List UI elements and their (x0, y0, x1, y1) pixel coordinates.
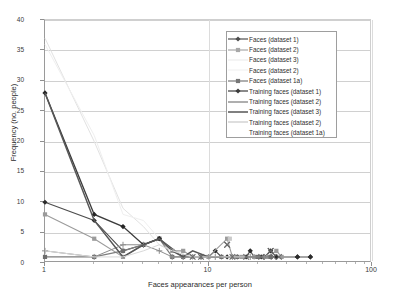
legend-marker-icon (227, 97, 249, 107)
legend-marker-icon (227, 86, 249, 96)
data-point (121, 249, 125, 253)
x-minor-tick (306, 262, 307, 264)
legend-marker-icon (227, 34, 249, 44)
x-minor-tick (200, 262, 201, 264)
series-7 (45, 93, 221, 257)
legend-marker-icon (227, 65, 249, 75)
data-point (43, 212, 47, 216)
y-tick-label: 15 (2, 167, 24, 174)
y-tick-label: 10 (2, 198, 24, 205)
legend-item-1[interactable]: Faces (dataset 2) (227, 44, 336, 54)
legend-marker-icon (227, 107, 249, 117)
legend-item-3[interactable]: Faces (dataset 2) (227, 65, 336, 75)
data-point (43, 255, 47, 259)
x-minor-tick (364, 262, 365, 264)
x-minor-tick (142, 262, 143, 264)
x-minor-tick (335, 262, 336, 264)
legend-label: Training faces (dataset 1) (249, 88, 321, 95)
legend-marker-icon (227, 45, 249, 55)
x-tick-mark (44, 262, 45, 266)
series-3 (45, 44, 215, 257)
data-point (120, 242, 126, 248)
legend-label: Faces (dataset 2) (249, 67, 299, 74)
x-minor-tick (286, 262, 287, 264)
legend-marker-icon (227, 55, 249, 65)
series-line (45, 44, 215, 257)
data-point (156, 248, 162, 254)
legend-label: Faces (dataset 3) (249, 56, 299, 63)
data-point (228, 237, 232, 241)
legend-item-8[interactable]: Training faces (dataset 2) (227, 117, 336, 127)
x-minor-tick (346, 262, 347, 264)
chart-title (0, 0, 400, 4)
legend-marker-icon (227, 117, 249, 127)
data-point (274, 249, 278, 253)
legend-label: Faces (dataset 1) (249, 36, 299, 43)
series-2 (45, 38, 221, 257)
legend-item-4[interactable]: Faces (dataset 1a) (227, 76, 336, 86)
series-line (45, 93, 159, 245)
x-tick-label: 1 (32, 266, 56, 274)
series-line (45, 214, 282, 257)
y-tick-label: 35 (2, 46, 24, 53)
y-tick-label: 0 (2, 259, 24, 266)
x-minor-tick (171, 262, 172, 264)
x-tick-mark (208, 262, 209, 266)
series-5 (42, 90, 161, 247)
legend-label: Faces (dataset 2) (249, 46, 299, 53)
x-axis-title: Faces appearances per person (0, 280, 400, 289)
y-tick-label: 40 (2, 16, 24, 23)
data-point (308, 254, 313, 259)
y-tick-label: 20 (2, 137, 24, 144)
data-point (42, 200, 47, 205)
x-minor-tick (322, 262, 323, 264)
legend-label: Training faces (dataset 2) (249, 119, 321, 126)
chart-root: Frequency (no. people) 0510152025303540 … (0, 0, 400, 298)
legend-item-9[interactable]: Training faces (dataset 1a) (227, 128, 336, 138)
chart-legend: Faces (dataset 1)Faces (dataset 2)Faces … (226, 31, 337, 138)
x-minor-tick (158, 262, 159, 264)
legend-item-7[interactable]: Training faces (dataset 3) (227, 107, 336, 117)
x-minor-tick (355, 262, 356, 264)
y-tick-label: 25 (2, 107, 24, 114)
legend-label: Training faces (dataset 2) (249, 98, 321, 105)
y-tick-label: 5 (2, 228, 24, 235)
data-point (295, 254, 300, 259)
series-line (45, 93, 221, 257)
legend-label: Faces (dataset 1a) (249, 77, 302, 84)
data-point (181, 249, 185, 253)
legend-item-6[interactable]: Training faces (dataset 2) (227, 96, 336, 106)
legend-item-5[interactable]: Training faces (dataset 1) (227, 86, 336, 96)
x-tick-mark (371, 262, 372, 266)
x-minor-tick (122, 262, 123, 264)
legend-marker-icon (227, 128, 249, 138)
legend-label: Training faces (dataset 1a) (249, 129, 325, 136)
series-line (45, 38, 221, 257)
x-tick-label: 100 (359, 266, 383, 274)
x-tick-label: 10 (196, 266, 220, 274)
legend-item-0[interactable]: Faces (dataset 1) (227, 34, 336, 44)
data-point (92, 237, 96, 241)
legend-item-2[interactable]: Faces (dataset 3) (227, 55, 336, 65)
series-line (45, 239, 271, 257)
x-minor-tick (182, 262, 183, 264)
x-minor-tick (93, 262, 94, 264)
legend-label: Training faces (dataset 3) (249, 108, 321, 115)
x-minor-tick (192, 262, 193, 264)
series-1 (43, 212, 284, 259)
y-tick-label: 30 (2, 76, 24, 83)
legend-marker-icon (227, 76, 249, 86)
vertical-gridline (372, 20, 373, 261)
x-minor-tick (257, 262, 258, 264)
